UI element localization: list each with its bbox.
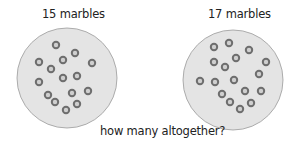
marble-icon: [211, 59, 217, 65]
marble-icon: [52, 99, 58, 105]
marble-group-right: [183, 30, 283, 130]
marble-icon: [212, 79, 218, 85]
marble-icon: [63, 107, 69, 113]
marble-group-left: [17, 28, 117, 128]
marble-icon: [60, 57, 66, 63]
marble-icon: [242, 88, 248, 94]
marble-icon: [263, 59, 269, 65]
marble-icon: [60, 75, 66, 81]
marble-icon: [246, 47, 252, 53]
marble-icon: [74, 73, 80, 79]
marble-icon: [89, 60, 95, 66]
marble-icon: [219, 91, 225, 97]
marble-icon: [69, 90, 75, 96]
marble-icon: [197, 78, 203, 84]
left-group-label: 15 marbles: [42, 7, 105, 21]
marble-icon: [74, 101, 80, 107]
marble-icon: [36, 79, 42, 85]
marble-icon: [85, 88, 91, 94]
marble-icon: [256, 71, 262, 77]
marble-icon: [226, 40, 232, 46]
marble-icon: [237, 106, 243, 112]
marble-icon: [53, 42, 59, 48]
marble-icon: [233, 55, 239, 61]
marble-icon: [248, 100, 254, 106]
marble-icon: [258, 88, 264, 94]
marble-icon: [48, 66, 54, 72]
marble-icon: [222, 64, 228, 70]
marble-icon: [211, 44, 217, 50]
marble-icon: [36, 59, 42, 65]
marble-icon: [72, 50, 78, 56]
right-group-label: 17 marbles: [208, 7, 271, 21]
marble-icon: [231, 77, 237, 83]
marble-icon: [45, 92, 51, 98]
marble-icon: [227, 99, 233, 105]
question-text: how many altogether?: [100, 124, 225, 138]
